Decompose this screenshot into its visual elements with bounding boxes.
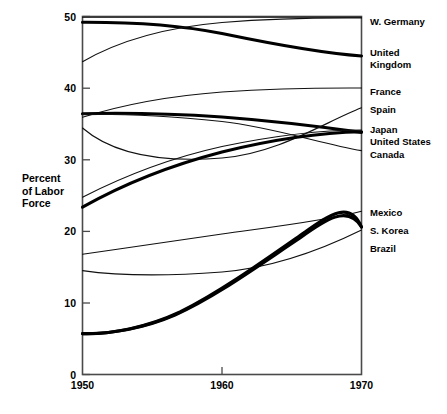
series-line-brazil-tail xyxy=(83,212,362,334)
y-tick-label-40: 40 xyxy=(64,82,76,94)
series-label-spain: Spain xyxy=(370,104,396,115)
series-label-mexico: Mexico xyxy=(370,207,402,218)
series-label-japan: Japan xyxy=(370,124,398,135)
series-label-united-states: United States xyxy=(370,136,431,147)
series-label-s-korea: S. Korea xyxy=(370,225,409,236)
line-chart-svg: 0 10 20 30 40 50 1950 1960 1970 Percent … xyxy=(0,0,447,414)
y-axis-title-line-2: of Labor xyxy=(22,185,64,197)
x-tick-label-1960: 1960 xyxy=(210,379,234,391)
series-line-mexico xyxy=(83,211,362,254)
series-label-united-kingdom-1: United xyxy=(370,47,400,58)
plot-frame xyxy=(83,17,362,375)
series-line-s-korea xyxy=(83,230,362,275)
series-label-w-germany: W. Germany xyxy=(370,16,426,27)
series-label-brazil: Brazil xyxy=(370,243,396,254)
series-label-france: France xyxy=(370,86,401,97)
series-label-united-kingdom-2: Kingdom xyxy=(370,59,411,70)
y-tick-label-30: 30 xyxy=(64,154,76,166)
y-tick-label-50: 50 xyxy=(64,11,76,23)
chart-figure: 0 10 20 30 40 50 1950 1960 1970 Percent … xyxy=(0,0,447,414)
series-line-united-kingdom xyxy=(83,22,362,56)
series-label-canada: Canada xyxy=(370,149,405,160)
y-tick-label-20: 20 xyxy=(64,225,76,237)
series-line-mexico-upper xyxy=(83,132,362,207)
y-axis-title-line-3: Force xyxy=(22,197,51,209)
series-line-japan xyxy=(83,113,362,132)
y-tick-label-10: 10 xyxy=(64,297,76,309)
x-tick-label-1970: 1970 xyxy=(350,379,374,391)
series-line-united-states xyxy=(83,114,362,150)
y-axis-title-line-1: Percent xyxy=(22,172,61,184)
x-tick-label-1950: 1950 xyxy=(71,379,95,391)
